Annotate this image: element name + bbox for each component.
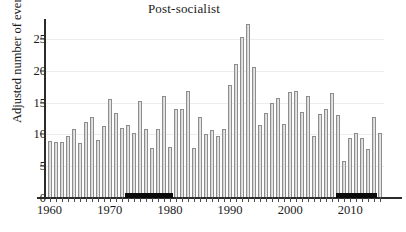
x-axis-tick-mark [206,197,207,202]
x-axis-tick-mark [122,197,123,202]
x-axis-tick-mark [332,197,333,202]
x-axis-tick-mark [56,197,57,202]
x-axis-tick-mark [320,197,321,202]
x-axis-tick-mark [278,197,279,202]
post-socialist-period-band [336,193,377,198]
x-axis-tick-mark [62,197,63,202]
x-axis-tick-mark [110,197,111,202]
x-axis-tick-label: 1990 [218,203,243,218]
x-axis-tick-mark [260,197,261,202]
x-axis-tick-mark [290,197,291,202]
chart-post-socialist: Post-socialist Adjusted number of events… [0,0,406,232]
x-axis-tick-mark [50,197,51,202]
x-axis-tick-mark [218,197,219,202]
x-axis-tick-mark [248,197,249,202]
x-axis-tick-mark [230,197,231,202]
x-axis-tick-mark [314,197,315,202]
x-axis-tick-mark [104,197,105,202]
x-axis-tick-mark [242,197,243,202]
socialist-period-band [125,193,173,198]
x-axis-tick-mark [176,197,177,202]
x-axis-tick-label: 2000 [278,203,303,218]
x-axis-tick-mark [86,197,87,202]
x-axis-tick-mark [272,197,273,202]
x-axis-tick-mark [182,197,183,202]
x-axis-tick-mark [92,197,93,202]
x-axis-tick-mark [212,197,213,202]
x-axis-tick-label: 1980 [157,203,182,218]
x-axis-tick-mark [74,197,75,202]
x-axis-tick-label: 1960 [37,203,62,218]
x-axis-tick-mark [98,197,99,202]
x-axis-tick-mark [68,197,69,202]
x-axis-tick-label: 2010 [338,203,363,218]
x-axis-tick-mark [266,197,267,202]
x-axis-tick-mark [254,197,255,202]
x-axis-tick-mark [200,197,201,202]
x-axis-tick-mark [224,197,225,202]
x-axis-tick-mark [188,197,189,202]
x-axis-tick-mark [284,197,285,202]
x-axis-tick-mark [194,197,195,202]
x-axis-tick-mark [236,197,237,202]
x-axis-tick-mark [80,197,81,202]
x-axis-tick-mark [326,197,327,202]
x-axis-tick-mark [302,197,303,202]
x-axis-tick-mark [308,197,309,202]
x-axis-tick-mark [296,197,297,202]
x-axis-tick-mark [116,197,117,202]
x-axis-ticks: 196019701980199020002010 [0,0,406,232]
x-axis-tick-label: 1970 [97,203,122,218]
x-axis-tick-mark [380,197,381,202]
